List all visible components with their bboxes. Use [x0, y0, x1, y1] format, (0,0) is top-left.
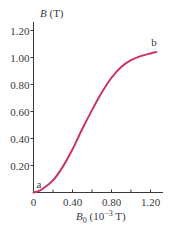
y-tick-label: 1.00: [10, 52, 30, 64]
point-label-b: b: [151, 36, 157, 48]
y-tick-label: 0.60: [10, 106, 30, 118]
y-tick-label: 0.80: [10, 79, 30, 91]
x-axis-title: B0 (10−3 T): [76, 209, 126, 225]
y-tick-label: 1.20: [10, 25, 30, 37]
y-tick-label: 0.40: [10, 133, 30, 145]
point-label-a: a: [37, 178, 42, 190]
chart-canvas: 0.200.400.600.801.001.20 00.400.801.20 B…: [0, 0, 176, 230]
x-tick-label: 1.20: [141, 196, 161, 208]
x-tick-label: 0.80: [102, 196, 122, 208]
x-tick-label: 0.40: [63, 196, 83, 208]
y-axis-title: B (T): [40, 7, 64, 20]
y-tick-label: 0.20: [10, 160, 30, 172]
y-ticks: 0.200.400.600.801.001.20: [10, 25, 33, 172]
point-labels: ab: [37, 36, 158, 189]
data-curve: [34, 52, 157, 192]
x-tick-label: 0: [31, 196, 37, 208]
axes: [34, 22, 164, 193]
